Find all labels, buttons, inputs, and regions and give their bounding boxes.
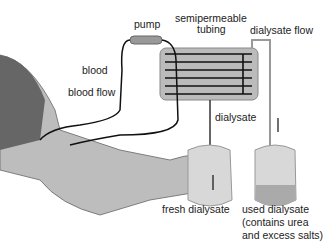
label-used-dialysate-1: used dialysate <box>242 203 309 215</box>
fresh-dialysate-bag <box>188 145 232 206</box>
label-pump: pump <box>134 18 160 30</box>
pump-device <box>130 36 162 44</box>
label-dialysate-flow: dialysate flow <box>250 24 313 36</box>
label-used-dialysate-3: and excess salts) <box>242 229 323 241</box>
label-used-dialysate-2: (contains urea <box>242 216 309 228</box>
sleeve <box>0 55 45 150</box>
label-blood-flow: blood flow <box>68 86 115 98</box>
label-blood: blood <box>82 64 108 76</box>
label-fresh-dialysate: fresh dialysate <box>162 203 230 215</box>
dialysis-diagram: pump semipermeable tubing dialysate flow… <box>0 0 329 242</box>
label-dialysate: dialysate <box>215 111 256 123</box>
label-tubing-2: tubing <box>197 23 226 35</box>
